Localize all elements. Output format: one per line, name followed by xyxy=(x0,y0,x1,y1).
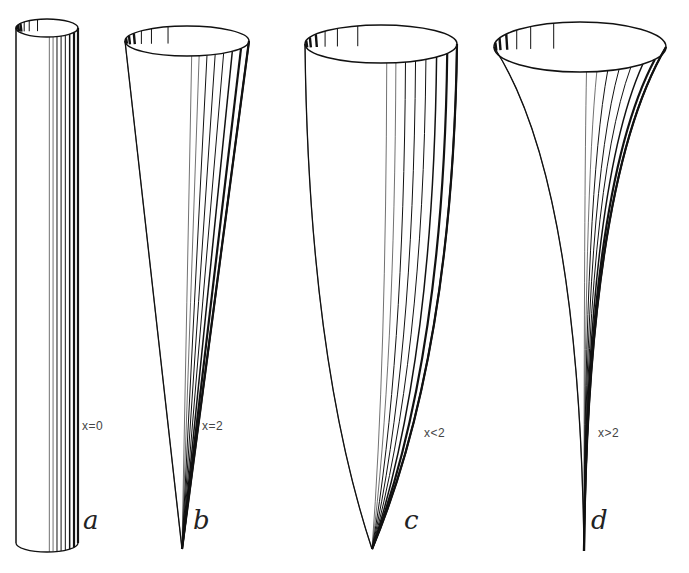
condition-label-d: x>2 xyxy=(598,426,619,440)
panel-b-cone xyxy=(125,26,249,549)
panel-letter-d: d xyxy=(591,505,608,535)
panel-letter-b: b xyxy=(193,505,210,535)
panel-a-cylinder xyxy=(16,19,78,552)
panel-letter-c: c xyxy=(404,505,419,535)
condition-label-a: x=0 xyxy=(82,419,103,433)
panel-c-convex-surface xyxy=(305,25,457,549)
figure-canvas xyxy=(0,0,689,573)
condition-label-b: x=2 xyxy=(202,419,223,433)
panel-d-concave-surface xyxy=(494,22,666,551)
panel-letter-a: a xyxy=(83,505,99,535)
condition-label-c: x<2 xyxy=(424,426,445,440)
